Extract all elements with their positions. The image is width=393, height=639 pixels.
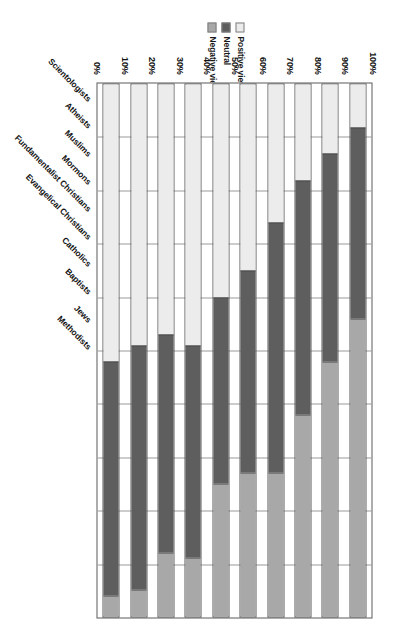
bar-segment[interactable] — [240, 270, 255, 472]
percent-tick-label: 30% — [174, 0, 184, 74]
bar-segment[interactable] — [213, 84, 228, 297]
bar-segment[interactable] — [158, 84, 173, 334]
percent-axis: 100%90%80%70%60%50%40%30%20%10%0% — [96, 0, 372, 80]
percent-tick-label: 70% — [284, 0, 294, 74]
bar-segment[interactable] — [268, 472, 283, 616]
table-row — [344, 83, 371, 617]
bar-segment[interactable] — [131, 345, 146, 590]
bar-segment[interactable] — [240, 84, 255, 270]
table-row — [261, 83, 288, 617]
category-label: Atheists — [63, 100, 93, 130]
category-label: Jews — [71, 302, 93, 324]
plot-area — [96, 82, 372, 618]
bar-segment[interactable] — [350, 127, 365, 319]
bar-segment[interactable] — [131, 84, 146, 345]
percent-tick-label: 20% — [146, 0, 156, 74]
stacked-bar[interactable] — [130, 83, 147, 617]
category-axis: ScientologistsAtheistsMuslimsMormonsFund… — [0, 82, 95, 618]
bar-segment[interactable] — [185, 345, 200, 558]
percent-tick-label: 100% — [367, 0, 377, 74]
stacked-bar[interactable] — [239, 83, 256, 617]
bar-segment[interactable] — [131, 589, 146, 616]
stacked-bar[interactable] — [349, 83, 366, 617]
bar-segment[interactable] — [185, 557, 200, 616]
bar-segment[interactable] — [350, 318, 365, 616]
bar-segment[interactable] — [158, 334, 173, 552]
percent-tick-label: 40% — [201, 0, 211, 74]
bar-segment[interactable] — [103, 361, 118, 595]
stacked-bar[interactable] — [267, 83, 284, 617]
table-row — [152, 83, 179, 617]
bar-segment[interactable] — [295, 180, 310, 414]
percent-tick-label: 50% — [229, 0, 239, 74]
bar-segment[interactable] — [103, 595, 118, 616]
percent-tick-label: 90% — [339, 0, 349, 74]
table-row — [179, 83, 206, 617]
bar-segment[interactable] — [213, 483, 228, 616]
bar-segment[interactable] — [322, 84, 337, 153]
bar-rows — [97, 83, 371, 617]
bar-segment[interactable] — [322, 153, 337, 360]
percent-tick-label: 60% — [257, 0, 267, 74]
category-label: Scientologists — [46, 56, 93, 103]
bar-segment[interactable] — [103, 84, 118, 361]
stacked-bar[interactable] — [157, 83, 174, 617]
table-row — [124, 83, 151, 617]
bar-segment[interactable] — [295, 414, 310, 616]
stacked-bar[interactable] — [294, 83, 311, 617]
stacked-bar[interactable] — [102, 83, 119, 617]
bar-segment[interactable] — [350, 84, 365, 127]
bar-segment[interactable] — [185, 84, 200, 345]
bar-segment[interactable] — [213, 297, 228, 483]
table-row — [289, 83, 316, 617]
percent-tick-label: 0% — [91, 0, 101, 74]
bar-segment[interactable] — [240, 472, 255, 616]
bar-segment[interactable] — [158, 552, 173, 616]
percent-tick-label: 80% — [312, 0, 322, 74]
stacked-bar[interactable] — [212, 83, 229, 617]
stacked-bar[interactable] — [321, 83, 338, 617]
bar-segment[interactable] — [295, 84, 310, 180]
table-row — [316, 83, 343, 617]
category-label: Baptists — [63, 266, 93, 296]
table-row — [234, 83, 261, 617]
bar-segment[interactable] — [268, 222, 283, 472]
bar-segment[interactable] — [268, 84, 283, 222]
bar-segment[interactable] — [322, 361, 337, 616]
percent-tick-label: 10% — [119, 0, 129, 74]
chart-canvas: Positive viewNeutralNegative view 100%90… — [0, 0, 393, 639]
table-row — [97, 83, 124, 617]
stacked-bar[interactable] — [184, 83, 201, 617]
table-row — [207, 83, 234, 617]
